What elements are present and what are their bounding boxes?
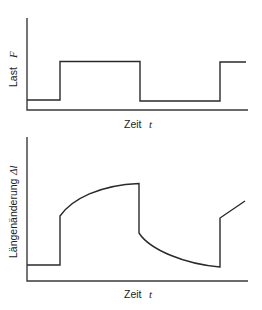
- load-chart: Last F Zeit t: [7, 18, 248, 130]
- diagram-canvas: Last F Zeit t Längenänderung Δl Zeit t: [0, 0, 262, 310]
- elongation-x-label-var: t: [149, 288, 153, 300]
- elongation-y-label: Längenänderung Δl: [7, 165, 19, 258]
- load-x-label-var: t: [149, 118, 153, 130]
- load-y-label-text: Last: [7, 67, 19, 87]
- elongation-x-label-text: Zeit: [124, 288, 142, 300]
- load-curve: [27, 62, 246, 102]
- load-y-label: Last F: [7, 51, 19, 87]
- elongation-curve: [27, 184, 245, 268]
- elongation-y-label-text: Längenänderung: [7, 178, 19, 258]
- elongation-y-label-var: Δl: [7, 165, 19, 176]
- elongation-chart: Längenänderung Δl Zeit t: [7, 137, 248, 300]
- load-y-label-var: F: [7, 51, 19, 59]
- load-x-label-text: Zeit: [124, 118, 142, 130]
